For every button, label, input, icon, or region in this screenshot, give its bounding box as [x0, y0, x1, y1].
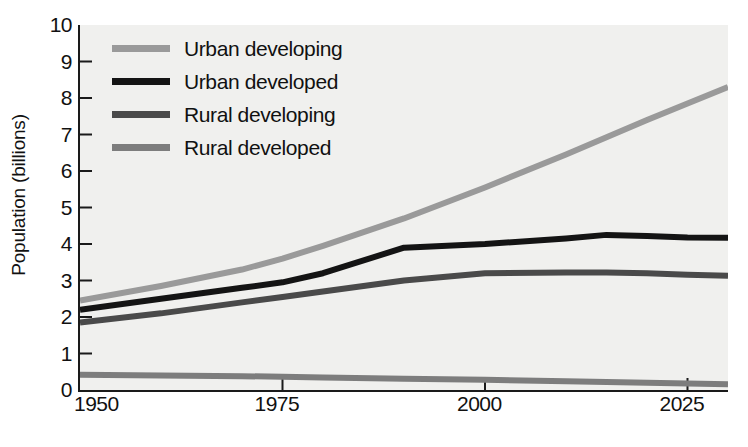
- y-tick-label: 1: [32, 343, 72, 364]
- legend-item[interactable]: Urban developing: [112, 32, 402, 65]
- y-tick-label: 9: [32, 51, 72, 72]
- x-tick-label: 1950: [74, 392, 119, 416]
- legend-swatch: [112, 45, 170, 52]
- legend-label: Urban developing: [184, 38, 342, 59]
- legend-item[interactable]: Urban developed: [112, 65, 402, 98]
- y-tick-label: 8: [32, 87, 72, 108]
- y-tick-label: 10: [32, 14, 72, 35]
- x-tick-label: 2025: [660, 392, 705, 416]
- x-axis-tick-labels: 1950197520002025: [0, 392, 748, 426]
- legend-item[interactable]: Rural developed: [112, 131, 402, 164]
- legend-swatch: [112, 78, 170, 85]
- y-tick-label: 3: [32, 270, 72, 291]
- legend-label: Urban developed: [184, 71, 338, 92]
- x-tick-label: 2000: [457, 392, 502, 416]
- y-tick-label: 7: [32, 124, 72, 145]
- y-tick-label: 4: [32, 233, 72, 254]
- y-tick-label: 5: [32, 197, 72, 218]
- x-tick-label: 1975: [255, 392, 300, 416]
- series-line: [80, 375, 728, 384]
- legend-item[interactable]: Rural developing: [112, 98, 402, 131]
- population-line-chart: Population (billions) 012345678910 19501…: [0, 0, 748, 447]
- legend-swatch: [112, 111, 170, 118]
- y-tick-label: 2: [32, 306, 72, 327]
- legend-swatch: [112, 144, 170, 151]
- legend-label: Rural developed: [184, 137, 331, 158]
- chart-legend: Urban developingUrban developedRural dev…: [112, 32, 402, 164]
- legend-label: Rural developing: [184, 104, 335, 125]
- y-tick-label: 6: [32, 160, 72, 181]
- y-axis-tick-labels: 012345678910: [28, 0, 72, 447]
